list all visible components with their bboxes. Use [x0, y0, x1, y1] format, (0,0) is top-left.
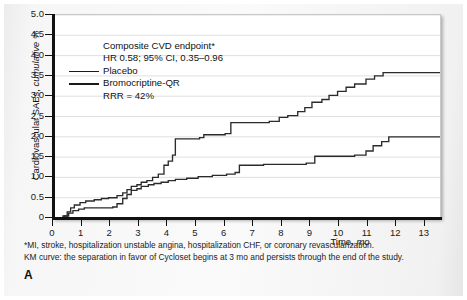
legend-item-bromocriptine: Bromocriptine-QR [103, 77, 223, 89]
y-tick-mark [45, 14, 52, 15]
x-tick-mark [338, 220, 339, 226]
y-tick-mark [45, 116, 52, 117]
x-tick-label: 8 [270, 227, 292, 238]
y-tick-mark [45, 95, 52, 96]
y-tick-mark [45, 55, 52, 56]
y-tick-mark [45, 156, 52, 157]
x-tick-mark [309, 220, 310, 226]
panel-letter: A [24, 268, 33, 282]
legend-label-bromocriptine: Bromocriptine-QR [103, 77, 180, 88]
annotation-stat: HR 0.58; 95% CI, 0.35–0.96 [103, 52, 223, 64]
footnote-km-curve: KM curve: the separation in favor of Cyc… [24, 252, 454, 264]
y-tick-mark [45, 136, 52, 137]
annotation-rrr: RRR = 42% [103, 90, 223, 102]
x-tick-mark [81, 220, 82, 226]
x-tick-mark [138, 220, 139, 226]
footnote-endpoint-definition: *MI, stroke, hospitalization unstable an… [24, 240, 454, 252]
x-tick-mark [52, 220, 53, 226]
figure-footnotes: *MI, stroke, hospitalization unstable an… [24, 240, 454, 263]
y-axis-line [52, 14, 55, 220]
annotation-title: Composite CVD endpoint* [103, 40, 223, 52]
x-tick-mark [109, 220, 110, 226]
y-axis-title-text: Cardiovascular SAEs, [30, 86, 41, 180]
x-tick-label: 3 [127, 227, 149, 238]
y-tick-mark [45, 176, 52, 177]
y-tick-mark [45, 217, 52, 218]
x-axis-line [52, 217, 442, 220]
x-tick-mark [166, 220, 167, 226]
x-tick-label: 13 [413, 227, 435, 238]
y-tick-mark [45, 34, 52, 35]
x-tick-mark [195, 220, 196, 226]
x-tick-mark [224, 220, 225, 226]
y-tick-mark [45, 75, 52, 76]
x-tick-mark [395, 220, 396, 226]
x-tick-label: 5 [184, 227, 206, 238]
x-tick-label: 4 [155, 227, 177, 238]
x-tick-mark [424, 220, 425, 226]
x-tick-mark [367, 220, 368, 226]
figure-root: 00.51.01.52.02.53.03.54.04.55.0 01234567… [0, 0, 467, 300]
x-tick-label: 1 [70, 227, 92, 238]
chart-annotation-block: Composite CVD endpoint* HR 0.58; 95% CI,… [103, 40, 223, 102]
legend-item-placebo: Placebo [103, 65, 223, 77]
x-tick-label: 0 [41, 227, 63, 238]
x-tick-label: 6 [213, 227, 235, 238]
legend-label-placebo: Placebo [103, 65, 138, 76]
legend-line-icon [69, 71, 99, 73]
x-tick-mark [252, 220, 253, 226]
y-tick-label: 0 [0, 212, 44, 221]
x-tick-label: 2 [98, 227, 120, 238]
y-axis-title: Cardiovascular SAEs, cumulative % [30, 11, 41, 201]
x-tick-label: 7 [241, 227, 263, 238]
x-tick-mark [281, 220, 282, 226]
y-tick-mark [45, 197, 52, 198]
legend-line-icon [69, 83, 99, 85]
y-axis-title-unit: cumulative % [30, 31, 41, 87]
